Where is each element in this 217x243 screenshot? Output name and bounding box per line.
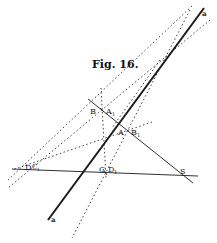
label-a-top: a — [202, 9, 207, 18]
figure-title: Fig. 16. — [92, 58, 138, 71]
label-B: B — [90, 107, 96, 116]
label-B1-subscript: 1 — [137, 132, 140, 138]
dotted-line-3 — [72, 10, 190, 238]
dotted-line-1 — [8, 6, 192, 180]
label-A1-subscript: 1 — [112, 111, 115, 117]
label-D: D — [25, 163, 31, 172]
label-A1: A — [105, 107, 112, 116]
label-A: A — [117, 128, 124, 137]
label-a-bottom: a — [51, 215, 56, 224]
label-C: C — [99, 165, 105, 174]
line-a — [48, 8, 204, 220]
label-C1-subscript: 1 — [37, 167, 40, 172]
geometry-diagram: Fig. 16. a a B A 1 A B 1 D C 1 C D 1 S — [0, 0, 217, 243]
label-D1-subscript: 1 — [114, 169, 117, 175]
dotted-line-2 — [8, 20, 210, 188]
label-S: S — [180, 167, 185, 176]
